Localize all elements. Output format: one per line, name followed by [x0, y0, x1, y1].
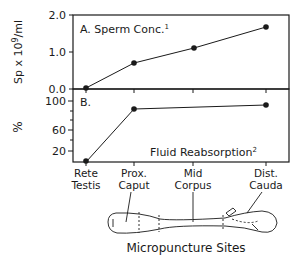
- panel-a-title: A. Sperm Conc.1: [80, 23, 169, 36]
- x-axis-labels: Rete Testis Prox. Caput Mid Corpus Dist.…: [70, 167, 282, 191]
- data-point: [83, 85, 89, 91]
- data-point: [131, 60, 137, 66]
- panel-b: 100 60 20 % B. Fluid Reabsorption2: [11, 89, 289, 166]
- panel-a-ylabel: Sp x 109/ml: [11, 20, 25, 84]
- x-label: Prox.: [121, 167, 147, 179]
- data-point: [263, 24, 269, 30]
- panel-b-ytick: 100: [45, 95, 66, 108]
- x-label: Mid: [184, 167, 203, 179]
- panel-b-annotation: Fluid Reabsorption2: [150, 146, 257, 159]
- diagram-caption: Micropuncture Sites: [126, 241, 245, 255]
- panel-a-ytick: 2.0: [49, 9, 67, 22]
- figure-svg: 2.0 1.0 0.0 Sp x 109/ml A. Sperm Conc.1 …: [0, 0, 300, 263]
- x-label: Testis: [70, 179, 100, 191]
- panel-a-ytick: 1.0: [49, 46, 67, 59]
- data-point: [191, 45, 197, 51]
- x-label: Corpus: [175, 179, 212, 191]
- panel-b-title: B.: [80, 96, 91, 109]
- panel-a: 2.0 1.0 0.0 Sp x 109/ml A. Sperm Conc.1: [11, 9, 289, 96]
- data-point: [263, 102, 269, 108]
- data-point: [83, 158, 89, 164]
- x-label: Caput: [118, 179, 149, 191]
- data-point: [131, 106, 137, 112]
- x-label: Dist.: [254, 167, 278, 179]
- panel-b-ytick: 20: [52, 145, 66, 158]
- panel-a-series-line: [86, 27, 266, 88]
- panel-b-ylabel: %: [11, 121, 25, 132]
- x-label: Rete: [74, 167, 98, 179]
- x-label: Cauda: [249, 179, 283, 191]
- panel-b-ytick: 60: [52, 124, 66, 137]
- epididymis-diagram: [108, 192, 277, 233]
